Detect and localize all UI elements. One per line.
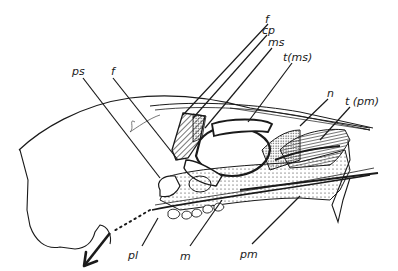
label-ps: ps (72, 66, 85, 77)
anatomical-diagram: f cp ms t(ms) n t (pm) ps f pl m pm (0, 0, 398, 271)
label-cp: cp (262, 25, 275, 36)
skull-drawing (0, 0, 398, 271)
label-n: n (327, 88, 334, 99)
label-t-pm: t (pm) (345, 96, 379, 107)
label-t-ms: t(ms) (283, 52, 312, 63)
head-outline-left (19, 150, 111, 249)
label-f-left: f (111, 66, 115, 77)
label-pm: pm (240, 249, 258, 260)
label-m: m (180, 251, 191, 262)
label-pl: pl (128, 250, 138, 261)
dotted-trajectory (112, 210, 150, 232)
label-ms: ms (268, 37, 284, 48)
